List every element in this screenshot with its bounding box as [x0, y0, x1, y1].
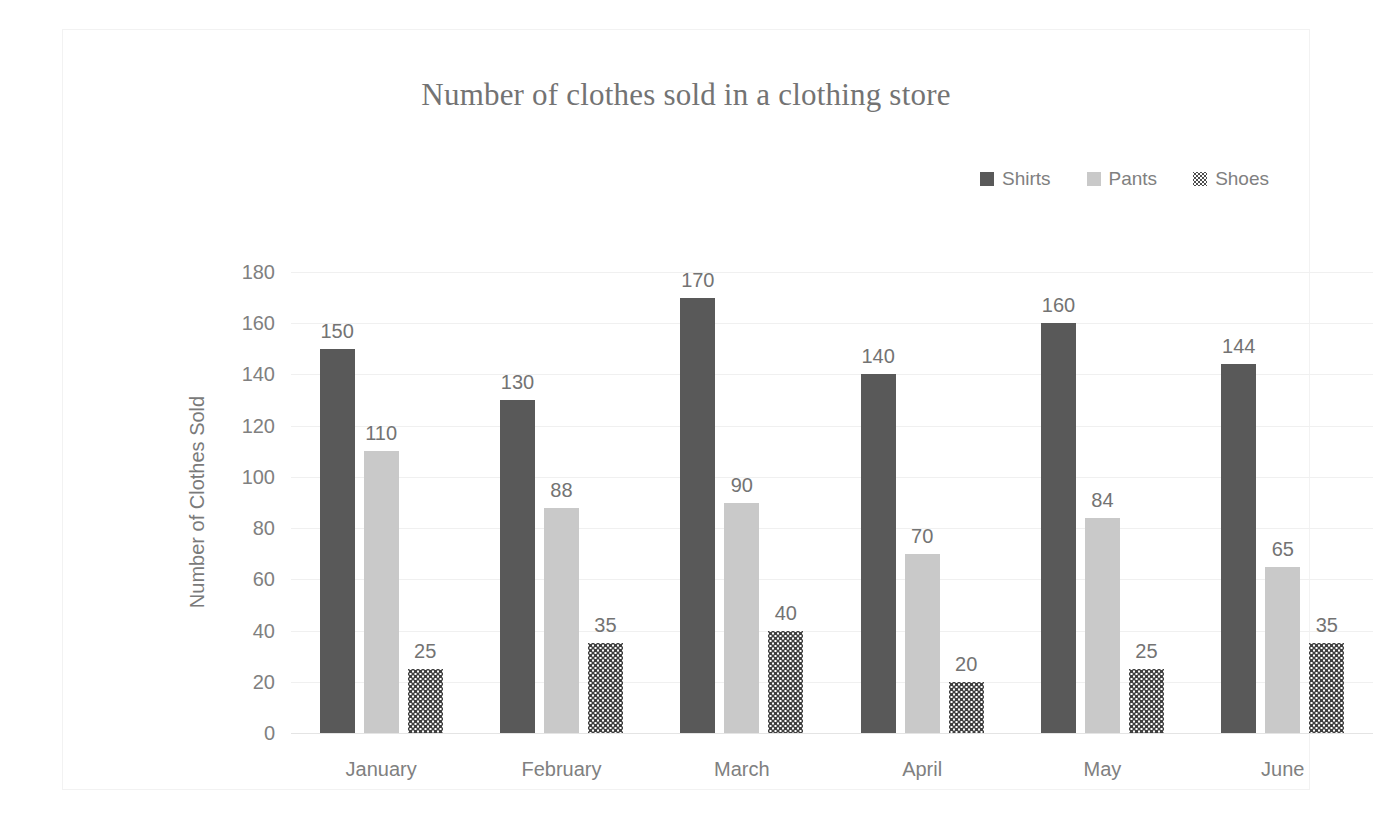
- bar-shoes-january[interactable]: 25: [408, 669, 443, 733]
- bar-shirts-april[interactable]: 140: [861, 374, 896, 733]
- bar-value-label: 150: [320, 320, 353, 343]
- bar-value-label: 140: [861, 345, 894, 368]
- legend-item-pants[interactable]: Pants: [1087, 168, 1158, 190]
- y-axis-tick-label: 40: [215, 619, 275, 642]
- bar-value-label: 40: [775, 602, 797, 625]
- bar-value-label: 84: [1091, 489, 1113, 512]
- chart-legend: Shirts Pants Shoes: [980, 168, 1269, 190]
- y-axis-tick-label: 180: [215, 261, 275, 284]
- bar-value-label: 130: [501, 371, 534, 394]
- y-axis-tick-label: 80: [215, 517, 275, 540]
- x-axis-line: [291, 733, 1373, 734]
- x-axis-tick-label: April: [832, 758, 1012, 781]
- x-axis-tick-label: February: [471, 758, 651, 781]
- bar-group: 1446535: [1193, 272, 1373, 733]
- y-axis-tick-label: 20: [215, 670, 275, 693]
- bar-shoes-march[interactable]: 40: [768, 631, 803, 733]
- bar-value-label: 88: [550, 479, 572, 502]
- chart-frame: Number of clothes sold in a clothing sto…: [62, 29, 1310, 790]
- bar-value-label: 90: [731, 474, 753, 497]
- bar-value-label: 35: [594, 614, 616, 637]
- bar-shirts-march[interactable]: 170: [680, 298, 715, 733]
- y-axis-tick-label: 140: [215, 363, 275, 386]
- bar-slot: 144: [1221, 272, 1256, 733]
- bar-value-label: 70: [911, 525, 933, 548]
- bar-group: 1709040: [652, 272, 832, 733]
- bar-group: 15011025: [291, 272, 471, 733]
- y-axis-tick-label: 60: [215, 568, 275, 591]
- y-axis-title: Number of Clothes Sold: [186, 396, 209, 608]
- bar-slot: 90: [724, 272, 759, 733]
- bar-slot: 25: [1129, 272, 1164, 733]
- bar-slot: 35: [1309, 272, 1344, 733]
- bar-shoes-april[interactable]: 20: [949, 682, 984, 733]
- bar-group-bars: 1446535: [1193, 272, 1373, 733]
- bar-value-label: 170: [681, 269, 714, 292]
- bar-slot: 25: [408, 272, 443, 733]
- chart-title: Number of clothes sold in a clothing sto…: [63, 77, 1309, 113]
- x-axis-tick-label: June: [1193, 758, 1373, 781]
- bar-value-label: 20: [955, 653, 977, 676]
- bar-slot: 130: [500, 272, 535, 733]
- bar-slot: 140: [861, 272, 896, 733]
- bar-group-bars: 1407020: [832, 272, 1012, 733]
- y-axis-tick-label: 120: [215, 414, 275, 437]
- legend-label-shoes: Shoes: [1215, 168, 1269, 190]
- bar-pants-january[interactable]: 110: [364, 451, 399, 733]
- x-axis-tick-label: March: [652, 758, 832, 781]
- bar-value-label: 110: [365, 422, 397, 445]
- bar-slot: 150: [320, 272, 355, 733]
- y-axis-tick-label: 100: [215, 465, 275, 488]
- bar-pants-february[interactable]: 88: [544, 508, 579, 733]
- bar-slot: 35: [588, 272, 623, 733]
- x-axis-tick-labels: JanuaryFebruaryMarchAprilMayJune: [291, 758, 1373, 781]
- bar-slot: 160: [1041, 272, 1076, 733]
- square-marker-icon-shirts: [980, 172, 994, 186]
- bar-pants-march[interactable]: 90: [724, 503, 759, 734]
- bar-group: 1308835: [471, 272, 651, 733]
- bar-value-label: 144: [1222, 335, 1255, 358]
- legend-item-shoes[interactable]: Shoes: [1193, 168, 1269, 190]
- bar-pants-april[interactable]: 70: [905, 554, 940, 733]
- bar-shirts-february[interactable]: 130: [500, 400, 535, 733]
- bar-shirts-may[interactable]: 160: [1041, 323, 1076, 733]
- legend-label-shirts: Shirts: [1002, 168, 1051, 190]
- bar-shirts-june[interactable]: 144: [1221, 364, 1256, 733]
- bar-group: 1407020: [832, 272, 1012, 733]
- legend-label-pants: Pants: [1109, 168, 1158, 190]
- bar-slot: 65: [1265, 272, 1300, 733]
- bar-slot: 20: [949, 272, 984, 733]
- x-axis-tick-label: May: [1012, 758, 1192, 781]
- bar-group-bars: 1709040: [652, 272, 832, 733]
- bar-slot: 84: [1085, 272, 1120, 733]
- bar-value-label: 35: [1316, 614, 1338, 637]
- bar-shoes-june[interactable]: 35: [1309, 643, 1344, 733]
- bar-group: 1608425: [1012, 272, 1192, 733]
- dotted-square-marker-icon-shoes: [1193, 172, 1207, 186]
- bar-pants-june[interactable]: 65: [1265, 567, 1300, 733]
- bar-groups: 1501102513088351709040140702016084251446…: [291, 272, 1373, 733]
- bar-shoes-february[interactable]: 35: [588, 643, 623, 733]
- bar-slot: 88: [544, 272, 579, 733]
- bar-group-bars: 15011025: [291, 272, 471, 733]
- bar-value-label: 65: [1272, 538, 1294, 561]
- bar-shoes-may[interactable]: 25: [1129, 669, 1164, 733]
- y-axis-tick-label: 160: [215, 312, 275, 335]
- bar-value-label: 25: [1135, 640, 1157, 663]
- bar-slot: 70: [905, 272, 940, 733]
- bar-slot: 170: [680, 272, 715, 733]
- bar-slot: 110: [364, 272, 399, 733]
- bar-value-label: 25: [414, 640, 436, 663]
- legend-item-shirts[interactable]: Shirts: [980, 168, 1051, 190]
- bar-pants-may[interactable]: 84: [1085, 518, 1120, 733]
- bar-group-bars: 1308835: [471, 272, 651, 733]
- bar-value-label: 160: [1042, 294, 1075, 317]
- y-axis-tick-label: 0: [215, 722, 275, 745]
- bar-group-bars: 1608425: [1012, 272, 1192, 733]
- square-marker-icon-pants: [1087, 172, 1101, 186]
- bar-slot: 40: [768, 272, 803, 733]
- bar-shirts-january[interactable]: 150: [320, 349, 355, 733]
- x-axis-tick-label: January: [291, 758, 471, 781]
